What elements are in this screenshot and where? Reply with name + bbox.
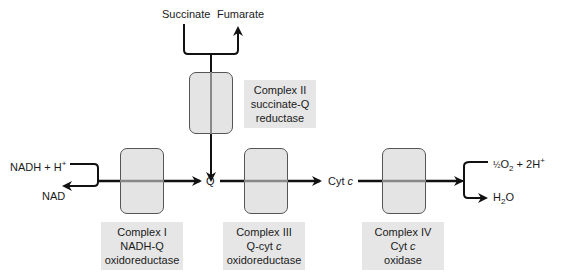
fumarate-label: Fumarate — [217, 8, 264, 21]
complex-iii-label: Complex IIIQ-cyt coxidoreductase — [223, 222, 305, 270]
nad-label: NAD — [42, 190, 65, 203]
water-label: H2O — [493, 191, 514, 208]
oxygen-label: ½O2 + 2H+ — [493, 154, 545, 175]
succinate-label: Succinate — [162, 8, 210, 21]
nadh-label: NADH + H+ — [10, 157, 66, 174]
q-label: Q — [206, 175, 215, 188]
cytc-label: Cyt c — [328, 175, 353, 188]
complex-ii-label: Complex IIsuccinate-Qreductase — [244, 80, 316, 128]
complex-iv-label: Complex IVCyt coxidase — [362, 222, 444, 270]
complex-i-label: Complex INADH-Qoxidoreductase — [101, 222, 183, 270]
